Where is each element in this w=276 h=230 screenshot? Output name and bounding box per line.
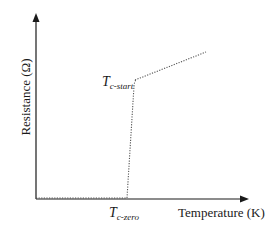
y-axis-arrow-icon	[33, 13, 40, 22]
y-axis	[33, 13, 40, 199]
y-axis-label: Resistance (Ω)	[18, 58, 33, 135]
x-axis	[36, 196, 249, 203]
resistance-temperature-diagram: Tc-start Tc-zero Temperature (K) Resista…	[0, 0, 276, 230]
x-axis-arrow-icon	[240, 196, 249, 203]
x-axis-label: Temperature (K)	[178, 205, 265, 220]
tc-zero-label: Tc-zero	[109, 205, 139, 222]
tc-start-label: Tc-start	[102, 74, 134, 91]
resistance-curve	[36, 52, 206, 198]
